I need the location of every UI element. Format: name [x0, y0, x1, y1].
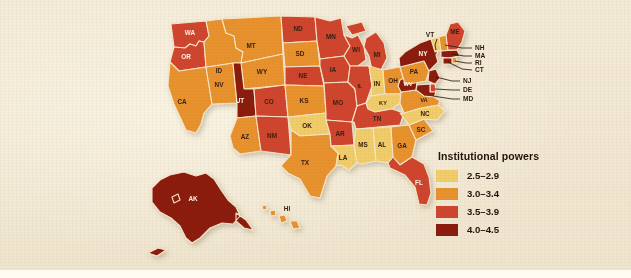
state-label-MT: MT	[246, 42, 255, 49]
state-label-IA: IA	[330, 66, 337, 73]
state-label-CO: CO	[264, 98, 274, 105]
state-DE[interactable]	[430, 84, 436, 92]
state-label-AK: AK	[188, 195, 198, 202]
state-NJ[interactable]	[428, 69, 440, 84]
legend-label-3: 4.0–4.5	[467, 224, 499, 235]
state-label-GA: GA	[397, 142, 407, 149]
state-label-TN: TN	[373, 115, 382, 122]
state-label-NV: NV	[215, 81, 225, 88]
state-label-VA: VA	[420, 97, 428, 103]
state-label-NM: NM	[267, 132, 277, 139]
state-label-TX: TX	[301, 159, 310, 166]
state-label-UT: UT	[236, 97, 245, 104]
state-label-OK: OK	[302, 122, 312, 129]
state-label-FL: FL	[415, 179, 423, 186]
state-label-AR: AR	[335, 130, 345, 137]
leader-line-RI	[455, 61, 472, 63]
callout-label-DE: DE	[463, 86, 473, 93]
state-label-ME: ME	[450, 28, 460, 35]
state-label-ND: ND	[293, 25, 303, 32]
callout-label-NH: NH	[475, 44, 485, 51]
legend-entries: 2.5–2.93.0–3.43.5–3.94.0–4.5	[436, 167, 586, 238]
leader-line-DE	[435, 89, 460, 90]
legend-row-2: 3.5–3.9	[436, 203, 586, 220]
state-label-OH: OH	[388, 77, 398, 84]
state-label-IL: IL	[358, 83, 363, 89]
legend-row-0: 2.5–2.9	[436, 167, 586, 184]
state-FL[interactable]	[388, 157, 431, 205]
state-HI[interactable]	[262, 205, 300, 229]
legend-title: Institutional powers	[438, 150, 586, 162]
state-label-AZ: AZ	[241, 133, 250, 140]
callout-label-VT: VT	[426, 31, 434, 38]
state-label-HI: HI	[284, 205, 291, 212]
legend-swatch-3	[436, 224, 458, 236]
state-label-NY: NY	[419, 50, 429, 57]
legend-label-2: 3.5–3.9	[467, 206, 499, 217]
state-label-LA: LA	[339, 154, 348, 161]
state-label-WV: WV	[403, 81, 412, 87]
state-label-AL: AL	[378, 141, 387, 148]
state-CA[interactable]	[168, 62, 212, 133]
state-label-KS: KS	[300, 97, 310, 104]
state-label-ID: ID	[216, 67, 223, 74]
legend-row-1: 3.0–3.4	[436, 185, 586, 202]
page-bottom-margin	[0, 270, 631, 278]
legend-swatch-1	[436, 188, 458, 200]
state-label-WA: WA	[185, 29, 196, 36]
callout-label-MA: MA	[475, 52, 485, 59]
legend-swatch-0	[436, 170, 458, 182]
state-label-MN: MN	[326, 33, 336, 40]
state-MA[interactable]	[441, 50, 460, 58]
state-label-CA: CA	[177, 98, 187, 105]
state-label-KY: KY	[379, 100, 387, 106]
state-label-NE: NE	[299, 72, 309, 79]
callout-label-CT: CT	[475, 66, 484, 73]
callout-label-MD: MD	[463, 95, 473, 102]
state-label-MI: MI	[373, 51, 380, 58]
callout-label-RI: RI	[475, 59, 482, 66]
state-label-SD: SD	[296, 50, 305, 57]
state-label-WI: WI	[352, 46, 360, 53]
legend-label-0: 2.5–2.9	[467, 170, 499, 181]
map-page: WA OR CA NV ID MT WY UT AZ CO NM ND SD N…	[0, 0, 631, 278]
state-label-OR: OR	[181, 53, 191, 60]
state-label-PA: PA	[410, 68, 419, 75]
state-label-SC: SC	[417, 126, 426, 133]
state-RI[interactable]	[452, 57, 457, 63]
callout-label-NJ: NJ	[463, 77, 472, 84]
state-AK[interactable]	[148, 172, 253, 256]
state-label-WY: WY	[257, 68, 268, 75]
state-label-NC: NC	[420, 110, 430, 117]
legend-swatch-2	[436, 206, 458, 218]
state-label-MO: MO	[333, 99, 343, 106]
map-legend: Institutional powers 2.5–2.93.0–3.43.5–3…	[436, 150, 586, 239]
state-label-IN: IN	[374, 80, 381, 87]
legend-label-1: 3.0–3.4	[467, 188, 499, 199]
state-label-MS: MS	[358, 141, 368, 148]
legend-row-3: 4.0–4.5	[436, 221, 586, 238]
